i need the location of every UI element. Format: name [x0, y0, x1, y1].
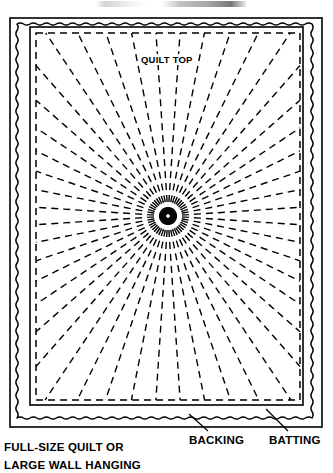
quilting-ray: [36, 100, 167, 215]
quilting-ray: [169, 218, 259, 400]
quilting-ray: [36, 216, 166, 225]
quilting-ray: [45, 218, 167, 400]
quilting-ray: [36, 217, 167, 331]
label-backing: BACKING: [189, 434, 244, 446]
scan-artifact-top: [96, 1, 246, 7]
quilt-top-rect: [30, 27, 303, 405]
quilting-ray: [170, 128, 300, 215]
quilting-ray: [169, 218, 291, 400]
quilting-ray: [36, 218, 167, 367]
quilting-ray: [77, 218, 167, 400]
quilt-layer-diagram: [0, 0, 333, 473]
radiating-quilting-lines: [36, 33, 300, 400]
quilting-ray: [170, 217, 300, 304]
quilting-ray: [36, 66, 167, 215]
label-batting: BATTING: [269, 434, 321, 446]
quilting-ray: [36, 217, 166, 304]
quilting-ray: [36, 128, 166, 215]
quilting-ray: [170, 217, 301, 331]
label-quilt-top: QUILT TOP: [139, 54, 195, 65]
quilting-ray: [169, 66, 300, 215]
quilting-ray: [170, 207, 300, 216]
quilting-ray: [170, 100, 301, 215]
stitch-border-rect: [36, 33, 300, 400]
caption-line-2: LARGE WALL HANGING: [4, 459, 141, 471]
caption-line-1: FULL-SIZE QUILT OR: [4, 441, 124, 453]
quilting-ray: [170, 216, 300, 225]
quilting-ray: [169, 218, 300, 367]
quilting-ray: [36, 207, 166, 216]
